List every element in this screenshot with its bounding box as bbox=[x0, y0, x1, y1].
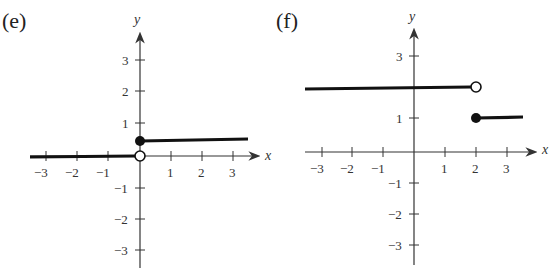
svg-text:−2: −2 bbox=[388, 207, 402, 222]
y-axis-label-e: y bbox=[132, 12, 141, 27]
svg-text:−2: −2 bbox=[114, 212, 128, 227]
svg-text:−1: −1 bbox=[388, 176, 402, 191]
graph-f-right-segment bbox=[476, 117, 523, 118]
x-tick-labels-e: −3 −2 −1 1 2 3 bbox=[34, 165, 236, 180]
x-axis-label-e: x bbox=[264, 148, 272, 163]
svg-text:1: 1 bbox=[441, 161, 448, 176]
graph-f-left-segment bbox=[305, 87, 471, 89]
x-axis-label-f: x bbox=[541, 142, 549, 157]
svg-text:2: 2 bbox=[198, 165, 205, 180]
svg-text:−3: −3 bbox=[114, 243, 128, 258]
svg-text:3: 3 bbox=[503, 161, 510, 176]
y-tick-labels-f: 3 1 −1 −2 −3 bbox=[388, 49, 403, 253]
graph-e-closed-dot bbox=[135, 136, 145, 146]
svg-text:1: 1 bbox=[167, 165, 174, 180]
graph-e-left-segment bbox=[30, 156, 136, 157]
graph-f-closed-dot bbox=[471, 113, 481, 123]
svg-text:−2: −2 bbox=[340, 161, 354, 176]
svg-text:−1: −1 bbox=[96, 165, 110, 180]
svg-text:−1: −1 bbox=[371, 161, 385, 176]
svg-text:3: 3 bbox=[396, 49, 403, 64]
graph-e: x y −3 −2 −1 1 2 3 bbox=[30, 12, 272, 268]
y-axis-label-f: y bbox=[407, 9, 416, 24]
svg-text:1: 1 bbox=[396, 111, 403, 126]
graph-f-open-dot bbox=[471, 82, 481, 92]
x-tick-labels-f: −3 −2 −1 1 2 3 bbox=[310, 161, 510, 176]
svg-text:2: 2 bbox=[122, 84, 129, 99]
svg-text:2: 2 bbox=[472, 161, 479, 176]
svg-text:−3: −3 bbox=[34, 165, 48, 180]
graph-e-open-dot bbox=[135, 151, 145, 161]
svg-text:−1: −1 bbox=[114, 181, 128, 196]
svg-text:−3: −3 bbox=[388, 238, 402, 253]
svg-text:3: 3 bbox=[229, 165, 236, 180]
svg-text:−3: −3 bbox=[310, 161, 324, 176]
svg-text:1: 1 bbox=[122, 116, 129, 131]
graph-e-right-segment bbox=[140, 139, 248, 141]
svg-text:−2: −2 bbox=[65, 165, 79, 180]
graphs-canvas: x y −3 −2 −1 1 2 3 bbox=[0, 0, 553, 269]
svg-text:3: 3 bbox=[122, 53, 129, 68]
graph-f: x y −3 −2 −1 1 2 3 3 bbox=[305, 9, 549, 265]
